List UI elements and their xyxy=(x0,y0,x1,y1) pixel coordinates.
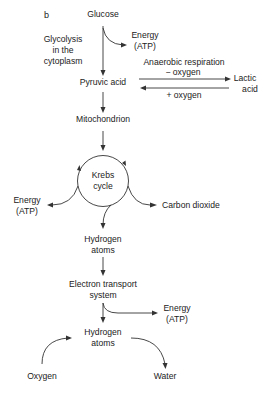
energy-left-line2: (ATP) xyxy=(10,206,44,217)
arrowhead-icon xyxy=(101,145,106,151)
arrow-hydrogen-to-water xyxy=(131,338,165,364)
arrowhead-icon xyxy=(121,43,127,48)
krebs-line1: Krebs xyxy=(83,170,123,181)
arrowhead-icon xyxy=(101,317,106,323)
cellular-respiration-diagram: b Glucose Energy (ATP) Glycolysis in the… xyxy=(0,0,266,395)
arrow-ets-to-energy xyxy=(103,303,153,313)
energy-left-line1: Energy xyxy=(10,195,44,206)
energy-bottom-line1: Energy xyxy=(160,303,194,314)
arrowhead-icon xyxy=(101,70,106,76)
node-mitochondrion: Mitochondrion xyxy=(68,114,138,125)
energy-bottom-line2: (ATP) xyxy=(160,314,194,325)
arrow-krebs-to-hydrogen xyxy=(103,205,111,225)
arrow-glucose-to-energy xyxy=(103,28,123,45)
hydrogen2-line2: atoms xyxy=(78,338,128,349)
arrowhead-icon xyxy=(150,203,157,208)
arrowhead-icon xyxy=(163,363,168,369)
node-lactic-acid: Lactic acid xyxy=(228,73,262,95)
arrowhead-icon xyxy=(47,203,53,208)
node-energy-top: Energy (ATP) xyxy=(128,30,162,52)
hydrogen2-line1: Hydrogen xyxy=(78,327,128,338)
node-hydrogen-atoms-1: Hydrogen atoms xyxy=(78,234,128,256)
lactic-line1: Lactic xyxy=(228,73,262,84)
node-energy-bottom: Energy (ATP) xyxy=(160,303,194,325)
node-hydrogen-atoms-2: Hydrogen atoms xyxy=(78,327,128,349)
krebs-line2: cycle xyxy=(83,181,123,192)
energy-top-line2: (ATP) xyxy=(128,41,162,52)
node-carbon-dioxide: Carbon dioxide xyxy=(162,200,220,211)
node-electron-transport-system: Electron transport system xyxy=(63,279,143,301)
ets-line1: Electron transport xyxy=(63,279,143,290)
glycolysis-line3: cytoplasm xyxy=(38,56,88,67)
arrow-krebs-to-energy xyxy=(52,186,78,205)
node-pyruvic-acid: Pyruvic acid xyxy=(70,77,136,88)
arrowhead-icon xyxy=(66,336,72,341)
cycle-arrowhead-icon xyxy=(77,165,81,171)
node-water: Water xyxy=(148,371,182,382)
arrowhead-icon xyxy=(101,270,106,276)
arrowhead-icon xyxy=(101,223,106,229)
panel-label: b xyxy=(44,10,49,21)
hydrogen1-line2: atoms xyxy=(78,245,128,256)
arrow-krebs-to-co2 xyxy=(128,186,150,205)
energy-top-line1: Energy xyxy=(128,30,162,41)
arrowhead-icon xyxy=(101,107,106,113)
label-plus-oxygen: + oxygen xyxy=(162,90,206,101)
hydrogen1-line1: Hydrogen xyxy=(78,234,128,245)
arrow-oxygen-to-hydrogen xyxy=(42,338,68,364)
node-glucose: Glucose xyxy=(78,9,128,20)
ets-line2: system xyxy=(63,290,143,301)
glycolysis-line2: in the xyxy=(38,45,88,56)
lactic-line2: acid xyxy=(228,84,262,95)
glycolysis-line1: Glycolysis xyxy=(38,34,88,45)
node-energy-left: Energy (ATP) xyxy=(10,195,44,217)
node-krebs-cycle: Krebs cycle xyxy=(83,170,123,192)
label-minus-oxygen: − oxygen xyxy=(160,67,206,78)
arrowhead-icon xyxy=(140,86,146,91)
node-oxygen: Oxygen xyxy=(22,371,62,382)
note-glycolysis: Glycolysis in the cytoplasm xyxy=(38,34,88,67)
arrowhead-icon xyxy=(152,311,158,316)
